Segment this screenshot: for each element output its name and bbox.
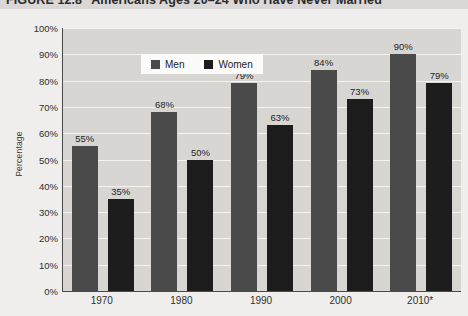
x-axis-tick-labels: 19701980199020002010* [62,295,460,315]
bar-men-2000 [311,70,337,291]
figure-title-band: FIGURE 12.8Americans Ages 20–24 Who Have… [0,0,468,9]
bar-group: 90%79% [381,28,461,291]
figure-title: FIGURE 12.8Americans Ages 20–24 Who Have… [6,0,382,7]
y-axis-tick-label: 70% [24,101,58,112]
legend-label: Women [218,59,252,70]
y-axis-tick-label: 50% [24,154,58,165]
bar-women-2010 [426,83,452,291]
figure-number: FIGURE 12.8 [6,0,82,7]
x-axis-tick-label: 2000 [329,295,351,306]
bar-value-label: 79% [430,70,449,81]
bar-chart: Percentage 0%10%20%30%40%50%60%70%80%90%… [0,9,468,316]
plot-area: 55%35%68%50%79%63%84%73%90%79% MenWomen [62,28,461,292]
x-axis-tick-label: 1980 [170,295,192,306]
x-axis-tick-label: 2010* [407,295,433,306]
chart-legend: MenWomen [141,54,263,74]
bar-women-1980 [187,160,213,292]
bar-men-2010 [390,54,416,291]
x-axis-tick-label: 1990 [250,295,272,306]
bar-men-1970 [72,146,98,291]
y-axis-tick-label: 40% [24,180,58,191]
legend-swatch-women [204,60,213,69]
y-axis-tick-label: 10% [24,259,58,270]
bar-men-1990 [231,83,257,291]
bar-value-label: 50% [191,147,210,158]
bar-value-label: 90% [394,41,413,52]
y-axis-tick-label: 0% [24,286,58,297]
legend-label: Men [165,59,184,70]
bar-value-label: 55% [75,133,94,144]
y-axis-tick-label: 30% [24,207,58,218]
bar-women-2000 [347,99,373,291]
bar-value-label: 68% [155,99,174,110]
y-axis-tick-label: 80% [24,75,58,86]
bar-group: 84%73% [302,28,382,291]
legend-entry-men: Men [151,59,184,70]
bar-group: 55%35% [63,28,143,291]
figure-title-text: Americans Ages 20–24 Who Have Never Marr… [91,0,382,7]
y-axis-tick-label: 60% [24,128,58,139]
legend-entry-women: Women [204,59,252,70]
bar-men-1980 [151,112,177,291]
x-axis-tick-label: 1970 [91,295,113,306]
y-axis-tick-label: 100% [24,23,58,34]
bar-women-1990 [267,125,293,291]
y-axis-tick-label: 90% [24,49,58,60]
y-axis-tick-labels: 0%10%20%30%40%50%60%70%80%90%100% [22,9,58,316]
bar-value-label: 73% [350,86,369,97]
y-axis-tick-label: 20% [24,233,58,244]
bar-value-label: 35% [111,186,130,197]
bar-value-label: 63% [270,112,289,123]
legend-swatch-men [151,60,160,69]
bar-women-1970 [108,199,134,291]
bar-value-label: 84% [314,57,333,68]
